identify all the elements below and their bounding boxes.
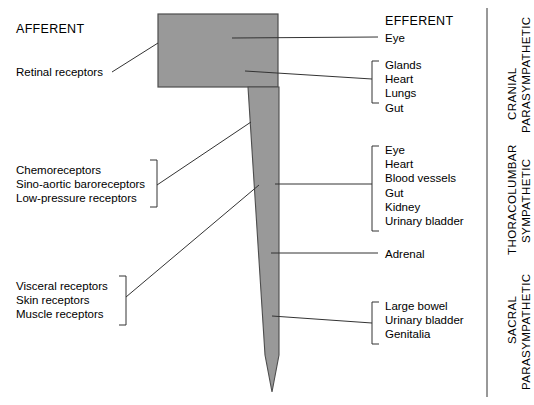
efferent-item-heart: Heart [385, 157, 464, 171]
bracket-efferent-cranial [372, 61, 379, 103]
bracket-afferent-chemoreceptors [150, 160, 157, 207]
autonomic-nervous-system-diagram: AFFERENT Retinal receptors Chemoreceptor… [0, 0, 534, 405]
efferent-item-kidney: Kidney [385, 200, 464, 214]
division-label-sacral-line1: SACRAL [506, 296, 518, 344]
division-label-cranial-line2: PARASYMPATHETIC [520, 16, 532, 133]
efferent-heading: EFFERENT [385, 14, 453, 28]
efferent-label-eye: Eye [385, 31, 405, 45]
division-label-cranial-line1: CRANIAL [506, 67, 518, 120]
efferent-group-sacral: Large bowel Urinary bladder Genitalia [385, 299, 464, 342]
efferent-item-eye: Eye [385, 143, 464, 157]
efferent-group-cranial: Glands Heart Lungs Gut [385, 58, 421, 115]
efferent-item-glands: Glands [385, 58, 421, 72]
afferent-item-chemoreceptors: Chemoreceptors [16, 163, 145, 177]
efferent-item-gut: Gut [385, 101, 421, 115]
afferent-item-low-pressure-receptors: Low-pressure receptors [16, 191, 145, 205]
afferent-group-visceral-receptors: Visceral receptors Skin receptors Muscle… [16, 279, 108, 322]
division-label-thoracolumbar-line2: SYMPATHETIC [520, 159, 532, 243]
efferent-item-large-bowel: Large bowel [385, 299, 464, 313]
afferent-heading: AFFERENT [16, 22, 84, 36]
bracket-efferent-sacral [372, 302, 379, 344]
division-label-thoracolumbar-line1: THORACOLUMBAR [506, 144, 518, 255]
efferent-item-heart: Heart [385, 72, 421, 86]
afferent-item-sino-aortic-baroreceptors: Sino-aortic baroreceptors [16, 177, 145, 191]
efferent-item-gut: Gut [385, 186, 464, 200]
efferent-item-lungs: Lungs [385, 86, 421, 100]
efferent-item-urinary-bladder-sacral: Urinary bladder [385, 313, 464, 327]
afferent-item-skin-receptors: Skin receptors [16, 293, 108, 307]
spinal-cord-shape [248, 87, 279, 392]
efferent-label-adrenal: Adrenal [385, 247, 425, 261]
efferent-item-genitalia: Genitalia [385, 327, 464, 341]
connector-retinal-receptors [112, 43, 158, 72]
bracket-afferent-visceral-receptors [119, 276, 126, 325]
efferent-item-blood-vessels: Blood vessels [385, 171, 464, 185]
division-label-sacral-line2: PARASYMPATHETIC [520, 273, 532, 390]
connector-afferent-visceral-receptors [126, 185, 259, 297]
afferent-item-muscle-receptors: Muscle receptors [16, 307, 108, 321]
afferent-item-visceral-receptors: Visceral receptors [16, 279, 108, 293]
bracket-efferent-thoracolumbar [372, 146, 379, 231]
brain-block-shape [158, 14, 278, 87]
afferent-label-retinal-receptors: Retinal receptors [16, 65, 103, 79]
connector-efferent-sacral [272, 316, 372, 323]
connector-afferent-chemoreceptors [157, 122, 251, 185]
efferent-group-thoracolumbar: Eye Heart Blood vessels Gut Kidney Urina… [385, 143, 464, 228]
efferent-item-urinary-bladder: Urinary bladder [385, 214, 464, 228]
afferent-group-chemoreceptors: Chemoreceptors Sino-aortic baroreceptors… [16, 163, 145, 206]
